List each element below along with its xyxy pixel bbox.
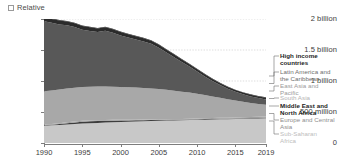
stacked-area-chart <box>44 19 266 143</box>
legend-connector <box>269 72 279 84</box>
x-tick-label: 2005 <box>150 148 167 157</box>
legend-item[interactable]: Europe and Central Asia <box>280 116 338 130</box>
relative-checkbox-label: Relative <box>17 3 45 12</box>
x-tick-mark <box>235 144 236 147</box>
legend-connector <box>269 114 279 121</box>
legend-connector <box>269 86 279 91</box>
x-tick-label: 2015 <box>227 148 244 157</box>
x-tick-mark <box>82 144 83 147</box>
legend-connector <box>269 98 279 99</box>
x-tick-mark <box>121 144 122 147</box>
legend-item[interactable]: Middle East and North Africa <box>280 102 338 116</box>
plot-area <box>44 19 266 143</box>
x-tick-mark <box>159 144 160 147</box>
legend: High income countriesLatin America and t… <box>268 52 337 156</box>
x-tick-mark <box>44 144 45 147</box>
relative-checkbox[interactable] <box>8 5 14 11</box>
x-tick-label: 2010 <box>189 148 206 157</box>
y-tick-label: 2 billion <box>295 15 337 23</box>
legend-connector <box>269 121 279 134</box>
legend-item[interactable]: Sub-Saharan Africa <box>280 130 338 144</box>
legend-item[interactable]: Latin America and the Caribbean <box>280 68 338 82</box>
legend-item[interactable]: High income countries <box>280 52 338 66</box>
x-tick-label: 1990 <box>36 148 53 157</box>
x-tick-mark <box>197 144 198 147</box>
legend-item[interactable]: South Asia <box>280 94 338 101</box>
x-axis-line <box>44 144 267 145</box>
x-tick-label: 1995 <box>74 148 91 157</box>
x-tick-label: 2000 <box>112 148 129 157</box>
x-tick-mark <box>266 144 267 147</box>
relative-checkbox-row[interactable]: Relative <box>8 2 45 13</box>
